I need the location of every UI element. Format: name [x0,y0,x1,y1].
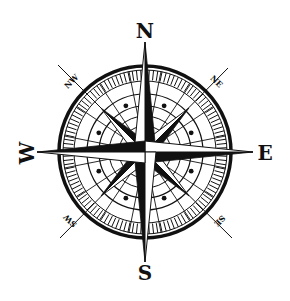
tick-mark [120,74,123,84]
point-east-light [145,141,253,152]
tick-mark [132,71,134,81]
tick-mark [64,163,74,165]
tick-mark [68,123,77,127]
tick-mark [217,143,227,144]
point-south-light [145,152,156,262]
tick-mark [207,111,216,116]
tick-mark [76,191,84,196]
tick-mark [201,197,209,203]
point-north-dark [145,42,156,152]
tick-mark [156,223,158,233]
tick-mark [184,83,189,91]
tick-mark [184,212,189,220]
tick-mark [171,75,175,84]
ring-dot [189,130,194,135]
tick-mark [76,107,84,112]
tick-mark [215,171,225,174]
tick-mark [174,77,178,86]
tick-mark [205,191,213,196]
tick-mark [70,181,79,185]
tick-mark [63,143,73,144]
ring-dot [96,169,101,174]
ring-dot [162,196,167,201]
tick-mark [164,222,167,232]
tick-mark [213,174,223,177]
tick-mark [216,163,226,165]
tick-mark [81,197,89,203]
tick-mark [209,115,218,120]
tick-mark [153,70,154,80]
tick-mark [190,208,196,216]
tick-mark [212,123,221,127]
tick-mark [153,224,154,234]
tick-mark [124,73,127,83]
label-east: E [257,141,272,165]
tick-mark [93,88,99,96]
tick-mark [81,100,89,106]
tick-mark [211,119,220,123]
ring-dot [123,103,128,108]
tick-mark [67,127,77,130]
point-south-dark [134,152,145,262]
tick-mark [100,83,105,91]
tick-mark [74,111,83,116]
tick-mark [93,208,99,216]
tick-mark [217,160,227,161]
tick-mark [116,219,120,228]
tick-mark [156,71,158,81]
tick-mark [66,171,76,174]
tick-mark [199,97,206,104]
point-north-light [134,42,145,152]
label-northwest: NW [62,71,81,90]
point-west-dark [37,141,145,152]
tick-mark [100,212,105,220]
tick-mark [212,178,221,182]
label-southeast: SE [212,213,227,228]
tick-mark [70,119,79,123]
tick-mark [201,100,209,106]
tick-mark [68,178,77,182]
label-south: S [138,261,152,285]
tick-mark [178,216,183,225]
ring-dot [189,169,194,174]
tick-mark [116,75,120,84]
tick-mark [104,81,109,90]
tick-mark [211,181,220,185]
tick-mark [205,107,213,112]
tick-mark [167,220,170,230]
tick-mark [171,219,175,228]
tick-mark [124,222,127,232]
tick-mark [67,174,77,177]
tick-mark [90,91,97,98]
point-west-light [37,152,145,163]
tick-mark [84,97,91,104]
tick-mark [190,88,196,96]
tick-mark [84,200,91,207]
tick-mark [74,188,83,193]
tick-mark [167,74,170,84]
tick-mark [104,214,109,223]
label-southwest: SW [61,212,79,230]
tick-mark [108,216,113,225]
tick-mark [136,224,137,234]
ring-dot [96,130,101,135]
tick-mark [120,220,123,230]
tick-mark [207,188,216,193]
tick-mark [132,223,134,233]
ring-dot [162,103,167,108]
label-north: N [136,19,154,43]
compass-rose: N S E W NW NE SE SW [0,0,290,301]
label-northeast: NE [208,73,225,90]
tick-mark [112,77,116,86]
point-east-dark [145,152,253,163]
tick-mark [181,81,186,90]
tick-mark [209,185,218,190]
label-west: W [15,141,39,165]
tick-mark [216,139,226,141]
tick-mark [112,218,116,227]
ring-dot [123,196,128,201]
tick-mark [164,73,167,83]
tick-mark [181,214,186,223]
tick-mark [178,79,183,88]
tick-mark [64,139,74,141]
